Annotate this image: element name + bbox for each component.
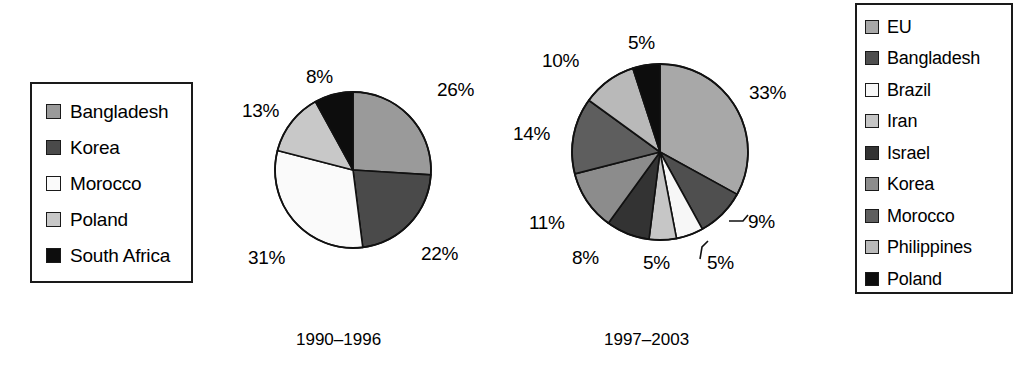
pie1-caption: 1990–1996 [296, 331, 381, 348]
pie2-pct-label: 5% [707, 253, 734, 272]
pie1-pct-label: 26% [437, 80, 474, 99]
pie-slices [275, 92, 431, 248]
pie2-caption: 1997–2003 [604, 331, 689, 348]
pie2-pct-label: 9% [748, 212, 775, 231]
pie2-pct-label: 5% [643, 253, 670, 272]
figure-two-pie-charts: Bangladesh Korea Morocco Poland South Af… [0, 0, 1030, 370]
pie-chart-1990-1996 [0, 0, 1030, 370]
pie2-pct-label: 10% [542, 51, 579, 70]
pie-slice [353, 92, 431, 175]
pie2-pct-label: 11% [529, 213, 565, 232]
pie2-pct-label: 8% [572, 248, 599, 267]
pie1-pct-label: 22% [421, 244, 458, 263]
pie2-pct-label: 14% [513, 124, 550, 143]
pie1-pct-label: 31% [248, 248, 285, 267]
pie-slices [572, 64, 748, 240]
pie2-pct-label: 5% [628, 33, 655, 52]
pie1-pct-label: 13% [242, 101, 279, 120]
pie-slice [353, 170, 431, 247]
label-leader-line [729, 215, 748, 221]
pie1-pct-label: 8% [306, 67, 333, 86]
pie2-pct-label: 33% [749, 83, 786, 102]
